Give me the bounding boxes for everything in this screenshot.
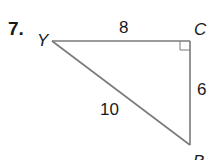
side-label-YB: 10 xyxy=(100,100,119,119)
triangle-diagram: 7. Y C B 8 6 10 xyxy=(0,0,212,160)
side-label-CB: 6 xyxy=(197,80,206,99)
right-angle-marker-icon xyxy=(180,41,190,50)
side-label-YC: 8 xyxy=(119,18,128,37)
side-YB-hypotenuse xyxy=(52,41,190,145)
vertex-label-Y: Y xyxy=(37,31,50,50)
vertex-label-C: C xyxy=(194,20,207,39)
problem-number: 7. xyxy=(8,18,24,39)
vertex-label-B: B xyxy=(193,152,204,160)
